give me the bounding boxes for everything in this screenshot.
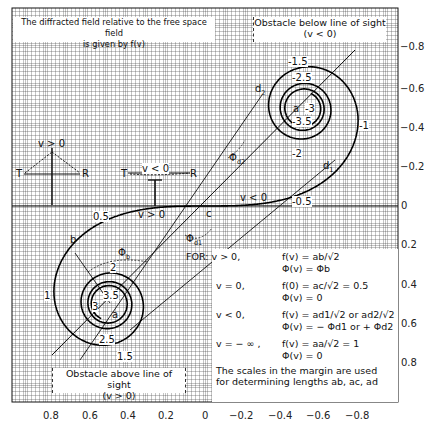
note-line-1: The scales in the margin are used [216,365,398,376]
phi-row-zero: Φ(v) = 0 [216,292,398,304]
f-neg-inf: f(v) = aa/√2 = 1 [282,338,359,350]
cond-positive: v > 0, [211,251,240,262]
right-tick: 0.6 [401,318,417,329]
formula-row-neg-inf: v = − ∞ ,f(v) = aa/√2 = 1 [216,338,398,350]
obstacle-above-line-1: Obstacle above line of sight [53,368,185,390]
obstacle-below-line-1: Obstacle below line of sight [254,17,386,28]
formula-row-negative: v < 0,f(v) = ad1/√2 or ad2/√2 [216,309,398,321]
label-2: 2 [110,262,116,273]
point-d1: d1 [323,160,334,176]
right-tick: 0.2 [401,239,417,250]
formula-box: FOR: v > 0,f(v) = ab/√2 Φ(v) = Φb v = 0,… [212,249,398,402]
label-neg-1-5: -1.5 [288,56,308,67]
phi-row-negative: Φ(v) = − Φd1 or + Φd2 [216,321,398,333]
point-b: b [70,234,76,245]
label-neg-3-5: -3.5 [292,116,312,127]
obstacle-above-line-2: (v > 0) [53,390,185,401]
obstacle-above-box: Obstacle above line of sight (v > 0) [52,368,186,393]
arrow-label-v-neg: v < 0 [240,192,267,203]
inset-neg-t: T [121,168,127,179]
bottom-tick: 0 [202,410,208,421]
formula-row-positive: FOR: v > 0,f(v) = ab/√2 [216,251,398,263]
right-tick: −0.8 [400,41,424,52]
phi-b: Φ [118,247,126,258]
point-d2: d2 [255,83,266,99]
label-neg-2-5: -2.5 [292,72,312,83]
bottom-tick: −0.6 [306,410,330,421]
bottom-tick: −0.8 [345,410,369,421]
label-neg-1: -1 [359,120,369,131]
phi-row-positive: Φ(v) = Φb [216,263,398,275]
label-neg-3: -3 [305,103,315,114]
point-c: c [206,208,212,219]
right-tick: 0.8 [401,357,417,368]
f-negative: f(v) = ad1/√2 or ad2/√2 [282,309,395,321]
right-tick: 0 [401,200,407,211]
right-tick: 0.4 [401,279,417,290]
phi-d1: Φ [186,233,194,244]
note-line-2: for determining lengths ab, ac, ad [216,376,398,387]
for-label: FOR: [186,251,208,262]
phi-negative: Φ(v) = − Φd1 or + Φd2 [282,321,393,333]
phi-d2: Φ [229,152,237,163]
inset-neg-r: R [190,168,197,179]
phi-positive: Φ(v) = Φb [282,263,330,275]
cond-zero: v = 0, [216,280,282,292]
bottom-tick: 0.6 [82,410,98,421]
label-2-5: 2.5 [99,334,115,345]
title-line-1: The diffracted field relative to the fre… [13,17,215,39]
obstacle-below-box: Obstacle below line of sight (v < 0) [253,17,386,42]
right-tick: −0.6 [400,83,424,94]
bottom-tick: 0.4 [120,410,136,421]
point-a-lower: a [112,309,118,320]
inset-pos-r: R [82,168,89,179]
label-3: 3 [92,301,98,312]
margin-note: The scales in the margin are used for de… [216,365,398,387]
f-zero: f(0) = ac/√2 = 0.5 [282,280,368,292]
cond-neg-inf: v = − ∞ , [216,338,282,350]
right-tick: −0.4 [400,122,424,133]
title-line-2: is given by f(v) [13,39,215,50]
phi-d2-label: Φd2 [229,152,245,168]
bottom-tick: −0.4 [268,410,292,421]
label-1-5: 1.5 [117,351,133,362]
phi-neg-inf: Φ(v) = 0 [282,350,323,362]
phi-zero: Φ(v) = 0 [282,292,323,304]
label-1: 1 [44,290,50,301]
point-a-upper: a [293,103,299,114]
phi-row-neg-inf: Φ(v) = 0 [216,350,398,362]
right-tick: −0.2 [400,161,424,172]
bottom-tick: 0.2 [158,410,174,421]
label-neg-0-5: -0.5 [292,196,312,207]
formula-row-zero: v = 0,f(0) = ac/√2 = 0.5 [216,280,398,292]
arrow-label-v-pos: v > 0 [138,209,165,220]
obstacle-below-line-2: (v < 0) [254,28,386,39]
inset-pos-t: T [16,168,22,179]
label-neg-2: -2 [292,148,302,159]
inset-neg-label: v < 0 [142,163,169,174]
inset-pos-label: v > 0 [38,138,65,149]
f-positive: f(v) = ab/√2 [282,251,340,263]
label-3-5: 3.5 [103,290,119,301]
label-0-5: 0.5 [93,211,109,222]
cond-negative: v < 0, [216,309,282,321]
bottom-tick: 0.8 [43,410,59,421]
title-box: The diffracted field relative to the fre… [13,17,215,42]
phi-b-label: Φb [118,247,130,263]
phi-d1-label: Φd1 [186,233,202,249]
bottom-tick: −0.2 [229,410,253,421]
